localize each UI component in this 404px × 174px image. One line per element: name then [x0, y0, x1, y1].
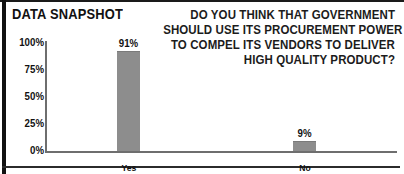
bar-no[interactable] — [293, 141, 316, 151]
bar-group-yes: 91% — [117, 41, 140, 151]
bar-value-no: 9% — [286, 127, 322, 139]
page-title: DATA SNAPSHOT — [12, 5, 123, 22]
x-tick-label-yes: Yes — [102, 162, 156, 173]
data-snapshot-panel: DATA SNAPSHOT DO YOU THINK THAT GOVERNME… — [0, 0, 404, 174]
bar-group-no: 9% — [293, 41, 316, 151]
plot-area: 91% 9% Yes No — [47, 41, 397, 151]
y-tick-label-50: 50% — [11, 90, 44, 102]
x-axis-line — [45, 151, 397, 153]
question-line-1: DO YOU THINK THAT GOVERNMENT — [163, 8, 395, 23]
bar-chart: 100% 75% 50% 25% 0% 91% 9% Yes No — [6, 34, 402, 168]
y-tick-label-25: 25% — [11, 117, 44, 129]
y-tick-label-0: 0% — [11, 144, 44, 156]
bar-yes[interactable] — [117, 51, 140, 151]
y-tick-label-100: 100% — [11, 36, 44, 48]
y-tick-label-75: 75% — [11, 63, 44, 75]
y-axis: 100% 75% 50% 25% 0% — [6, 34, 44, 156]
top-rule — [0, 0, 404, 2]
x-tick-label-no: No — [278, 162, 332, 173]
bar-value-yes: 91% — [110, 37, 146, 49]
